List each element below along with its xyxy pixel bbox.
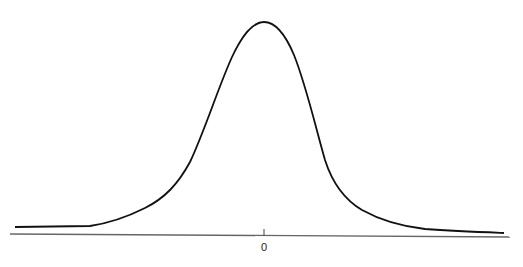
x-tick-label-zero: 0: [261, 241, 267, 253]
density-curve: [15, 22, 504, 233]
x-axis: [10, 234, 510, 237]
density-chart: 0: [0, 0, 523, 267]
